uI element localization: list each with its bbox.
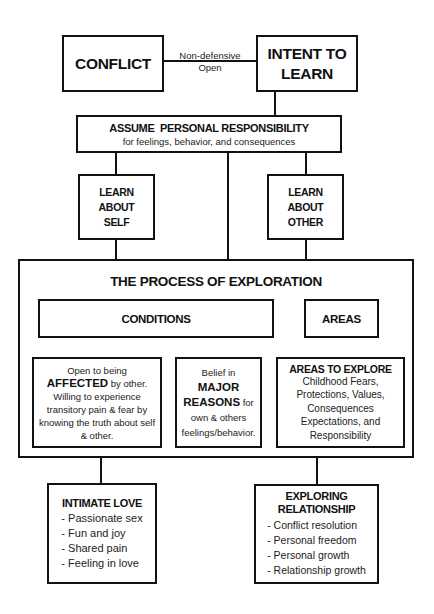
condition-reasons-box: Belief in MAJOR REASONS for own & others… — [175, 357, 262, 448]
conditions-label: CONDITIONS — [121, 313, 190, 325]
connector-responsibility-self — [115, 152, 117, 174]
condition-affected-bold: AFFECTED — [47, 377, 108, 389]
connector-responsibility-process — [227, 152, 229, 259]
connector-process-exploring — [316, 457, 318, 484]
learn-self-line3: SELF — [104, 215, 130, 230]
responsibility-box: ASSUME PERSONAL RESPONSIBILITY for feeli… — [76, 115, 342, 153]
condition-reasons-pre: Belief in — [202, 367, 236, 378]
process-title: THE PROCESS OF EXPLORATION — [110, 274, 322, 289]
connector-label-line2: Open — [168, 62, 252, 73]
connector-other-process — [305, 239, 307, 259]
intent-label-line2: LEARN — [281, 64, 333, 84]
responsibility-subtitle: for feelings, behavior, and consequences — [123, 136, 296, 147]
connector-label: Non-defensive Open — [168, 50, 252, 73]
list-item: - Shared pain — [61, 541, 142, 556]
connector-process-intimate-love — [100, 457, 102, 483]
exploring-relationship-box: EXPLORING RELATIONSHIP - Conflict resolu… — [254, 484, 379, 584]
areas-to-explore-title: AREAS TO EXPLORE — [289, 363, 391, 375]
areas-box: AREAS — [304, 299, 379, 338]
learn-self-line1: LEARN — [99, 185, 134, 200]
condition-reasons-bold: MAJOR REASONS — [183, 381, 240, 408]
areas-to-explore-text: Childhood Fears, Protections, Values, Co… — [278, 375, 403, 443]
conflict-label: CONFLICT — [75, 55, 151, 73]
learn-about-self-box: LEARN ABOUT SELF — [78, 174, 155, 240]
intimate-love-title: INTIMATE LOVE — [62, 497, 142, 509]
connector-responsibility-other — [305, 152, 307, 174]
intent-to-learn-box: INTENT TO LEARN — [256, 35, 358, 92]
responsibility-title: ASSUME PERSONAL RESPONSIBILITY — [109, 122, 309, 134]
connector-intent-responsibility — [274, 91, 276, 115]
condition-affected-pre: Open to being — [67, 365, 127, 376]
list-item: - Personal freedom — [267, 533, 366, 548]
intimate-love-box: INTIMATE LOVE - Passionate sex - Fun and… — [47, 483, 157, 584]
exploring-title-line2: RELATIONSHIP — [278, 503, 355, 516]
conditions-box: CONDITIONS — [38, 299, 274, 338]
areas-label: AREAS — [322, 313, 361, 325]
connector-self-process — [115, 239, 117, 259]
learn-about-other-box: LEARN ABOUT OTHER — [267, 174, 344, 240]
connector-label-line1: Non-defensive — [168, 50, 252, 61]
learn-other-line1: LEARN — [288, 185, 323, 200]
intimate-love-list: - Passionate sex - Fun and joy - Shared … — [61, 511, 142, 571]
areas-to-explore-box: AREAS TO EXPLORE Childhood Fears, Protec… — [276, 357, 405, 448]
list-item: - Passionate sex — [61, 511, 142, 526]
list-item: - Fun and joy — [61, 526, 142, 541]
condition-affected-text: Open to being AFFECTED by other. Willing… — [34, 364, 160, 442]
learn-self-line2: ABOUT — [99, 200, 135, 215]
condition-affected-box: Open to being AFFECTED by other. Willing… — [32, 357, 162, 448]
conflict-box: CONFLICT — [62, 35, 164, 92]
list-item: - Conflict resolution — [267, 518, 366, 533]
list-item: - Personal growth — [267, 548, 366, 563]
learn-other-line2: ABOUT — [288, 200, 324, 215]
intent-label-line1: INTENT TO — [268, 44, 347, 64]
learn-other-line3: OTHER — [288, 215, 323, 230]
condition-reasons-text: Belief in MAJOR REASONS for own & others… — [177, 365, 260, 440]
list-item: - Relationship growth — [267, 563, 366, 578]
exploring-relationship-list: - Conflict resolution - Personal freedom… — [267, 518, 366, 578]
exploring-title-line1: EXPLORING — [285, 490, 347, 503]
list-item: - Feeling in love — [61, 556, 142, 571]
